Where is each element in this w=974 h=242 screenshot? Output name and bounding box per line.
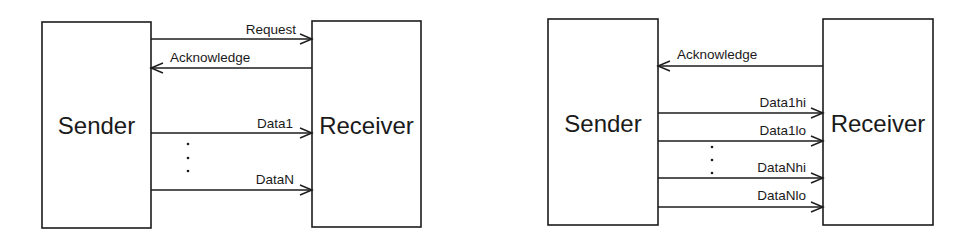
receiver-label: Receiver	[831, 110, 926, 137]
signal-request: Request	[151, 22, 312, 44]
datan-label: DataN	[256, 172, 294, 187]
signal-data1: Data1	[151, 116, 312, 138]
diagram-single-rail: Sender Receiver Request Acknowledge	[42, 21, 421, 228]
acknowledge-label: Acknowledge	[677, 47, 757, 62]
datanlo-label: DataNlo	[757, 188, 806, 203]
handshake-diagrams: Sender Receiver Request Acknowledge	[0, 0, 974, 242]
sender-label: Sender	[564, 110, 641, 137]
receiver-label: Receiver	[319, 112, 414, 139]
diagram-dual-rail: Sender Receiver Acknowledge Data1hi	[548, 19, 933, 225]
signal-data1lo: Data1lo	[658, 123, 823, 146]
ellipsis-icon	[187, 143, 190, 173]
signal-data1hi: Data1hi	[658, 95, 823, 118]
receiver-block: Receiver	[312, 21, 421, 227]
data1lo-label: Data1lo	[759, 123, 806, 138]
request-label: Request	[246, 22, 297, 37]
datanhi-label: DataNhi	[757, 160, 806, 175]
ellipsis-icon	[711, 146, 714, 175]
data1-label: Data1	[257, 116, 293, 131]
signal-acknowledge: Acknowledge	[151, 50, 312, 73]
acknowledge-label: Acknowledge	[170, 50, 250, 65]
data1hi-label: Data1hi	[759, 95, 806, 110]
signal-datan: DataN	[151, 172, 312, 195]
diagram-canvas: Sender Receiver Request Acknowledge	[0, 0, 974, 242]
sender-block: Sender	[548, 19, 658, 225]
receiver-block: Receiver	[823, 19, 933, 225]
signal-datanhi: DataNhi	[658, 160, 823, 183]
signal-datanlo: DataNlo	[658, 188, 823, 212]
sender-block: Sender	[42, 22, 151, 228]
sender-label: Sender	[58, 112, 135, 139]
signal-acknowledge: Acknowledge	[658, 47, 823, 71]
